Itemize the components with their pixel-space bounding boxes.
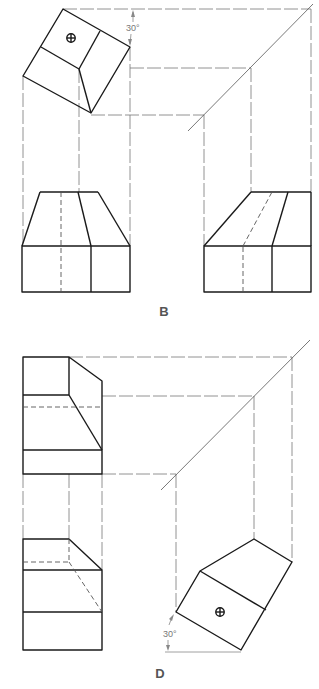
miter-line-d (161, 340, 310, 490)
hole-icon (216, 608, 224, 616)
angle-label-d: 30° (163, 629, 177, 639)
top-view-b (23, 9, 130, 113)
panel-b: 30° B (22, 4, 313, 319)
panel-label-d: D (155, 666, 164, 681)
angle-dimension-b: 30° (126, 10, 140, 46)
miter-line-b (188, 4, 313, 131)
panel-d: 30° D (23, 340, 310, 681)
side-view-b (204, 192, 311, 292)
angle-dimension-d: 30° (163, 614, 241, 652)
hole-icon (67, 34, 75, 42)
top-view-d (23, 357, 102, 474)
front-view-b (22, 192, 130, 292)
panel-label-b: B (159, 304, 168, 319)
angle-label-b: 30° (126, 23, 140, 33)
side-view-d (176, 539, 292, 650)
front-view-d (23, 539, 102, 650)
projection-lines-b (23, 9, 311, 246)
drawing-canvas: 30° B (0, 0, 319, 689)
